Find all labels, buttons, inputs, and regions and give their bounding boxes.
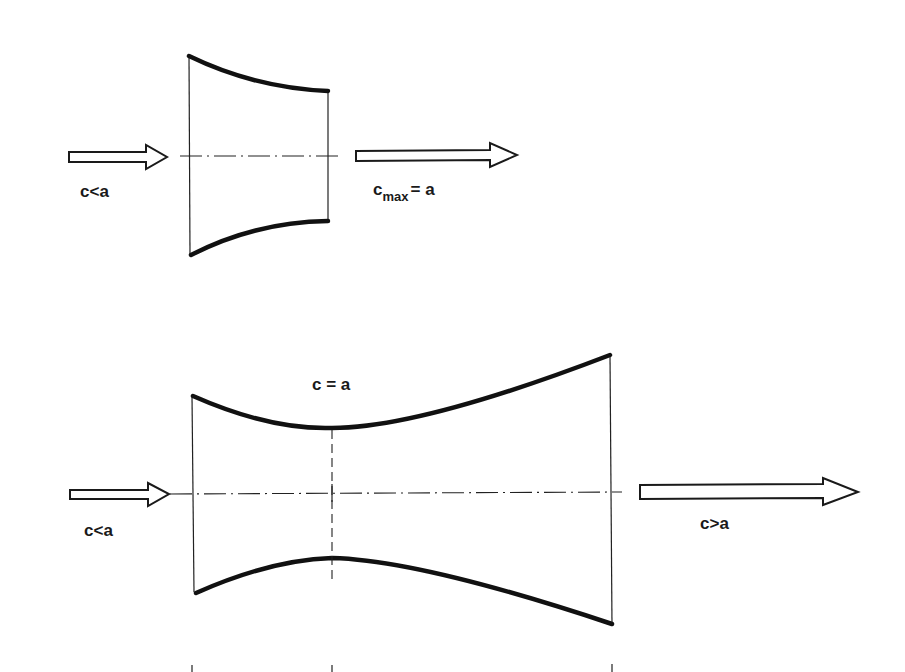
- center-axis: [170, 492, 622, 494]
- laval-nozzle: [170, 355, 622, 672]
- bottom-inlet-label: c<a: [84, 521, 113, 540]
- top-inlet-label: c<a: [80, 182, 109, 201]
- outlet-arrow-icon: [356, 143, 517, 167]
- lower-wall: [196, 558, 612, 624]
- upper-wall: [193, 355, 610, 428]
- bottom-outlet-label: c>a: [700, 514, 729, 533]
- inlet-arrow-icon: [69, 145, 167, 169]
- nozzle-diagram: c<a cmax= a c = a c<a c>a: [0, 0, 905, 672]
- lower-wall: [191, 221, 328, 255]
- outlet-arrow-icon: [640, 478, 858, 505]
- top-outlet-label: cmax= a: [373, 180, 435, 204]
- upper-wall: [189, 56, 328, 91]
- inlet-arrow-icon: [70, 483, 169, 506]
- inlet-section-line: [192, 396, 194, 592]
- outlet-section-line: [610, 355, 612, 625]
- converging-nozzle: [180, 55, 338, 256]
- throat-label: c = a: [312, 375, 351, 394]
